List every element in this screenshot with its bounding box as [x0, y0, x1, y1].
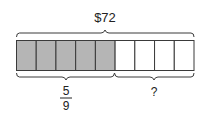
fraction-denominator: 9	[63, 99, 70, 113]
shaded-part	[95, 41, 115, 71]
fraction-numerator: 5	[63, 84, 70, 98]
unshaded-part	[174, 41, 194, 71]
unshaded-part	[115, 41, 135, 71]
shaded-part	[36, 41, 56, 71]
bottom-brace-shaded	[17, 73, 115, 80]
tape-bar	[17, 41, 195, 71]
shaded-part	[17, 41, 37, 71]
unknown-label: ?	[151, 85, 158, 99]
bottom-brace-unknown	[115, 73, 195, 80]
unshaded-part	[155, 41, 175, 71]
shaded-part	[56, 41, 76, 71]
shaded-part	[76, 41, 96, 71]
top-brace	[17, 30, 195, 37]
tape-diagram: $72 5 9 ?	[0, 0, 201, 116]
total-label: $72	[94, 10, 116, 25]
unshaded-part	[135, 41, 155, 71]
